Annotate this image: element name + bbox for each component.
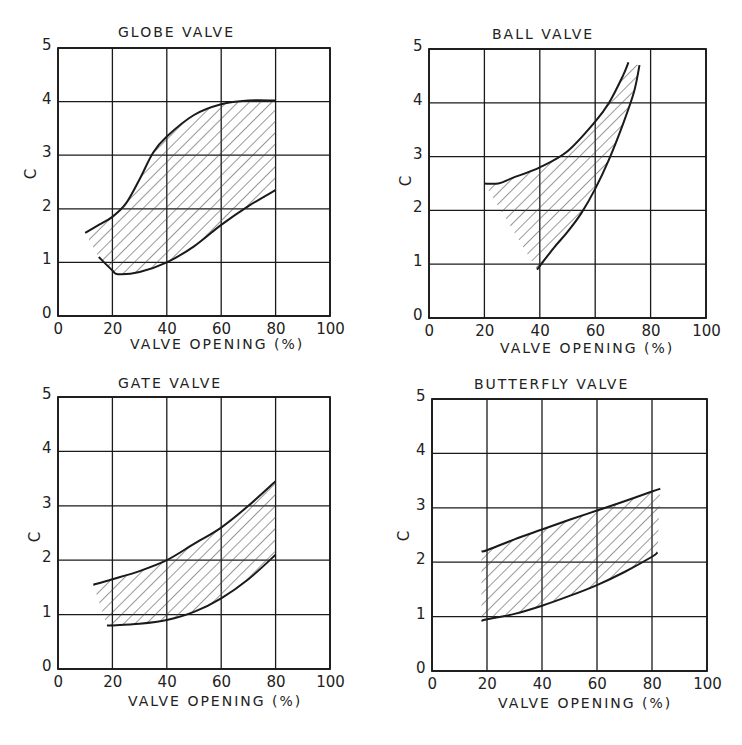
y-tick-label: 4: [416, 441, 426, 459]
x-tick-label: 80: [643, 675, 662, 693]
x-tick-label: 60: [588, 675, 607, 693]
y-tick-label: 4: [42, 439, 52, 457]
x-tick-label: 20: [103, 673, 122, 691]
y-tick-label: 2: [416, 550, 426, 568]
x-tick-label: 0: [53, 320, 63, 338]
x-tick-label: 60: [212, 673, 231, 691]
x-tick-label: 100: [316, 320, 345, 338]
y-tick-label: 1: [42, 603, 52, 621]
x-tick-label: 20: [103, 320, 122, 338]
y-tick-label: 1: [42, 250, 52, 268]
y-tick-label: 4: [42, 90, 52, 108]
x-tick-label: 100: [693, 675, 722, 693]
x-tick-label: 80: [641, 322, 660, 340]
x-tick-label: 40: [533, 675, 552, 693]
y-tick-label: 0: [42, 304, 52, 322]
y-tick-label: 0: [413, 306, 423, 324]
y-tick-label: 5: [42, 36, 52, 54]
x-tick-label: 0: [427, 675, 437, 693]
x-tick-label: 20: [475, 322, 494, 340]
x-tick-label: 100: [316, 673, 345, 691]
x-tick-label: 80: [266, 320, 285, 338]
y-tick-label: 0: [416, 659, 426, 677]
x-tick-label: 60: [212, 320, 231, 338]
x-tick-label: 0: [53, 673, 63, 691]
butterfly-valve-plot: [0, 0, 742, 745]
y-tick-label: 1: [413, 252, 423, 270]
y-tick-label: 3: [42, 494, 52, 512]
x-tick-label: 80: [266, 673, 285, 691]
y-tick-label: 3: [413, 145, 423, 163]
x-tick-label: 40: [158, 673, 177, 691]
y-tick-label: 2: [42, 548, 52, 566]
y-tick-label: 5: [42, 385, 52, 403]
x-tick-label: 100: [692, 322, 721, 340]
y-tick-label: 3: [42, 143, 52, 161]
x-tick-label: 40: [158, 320, 177, 338]
x-tick-label: 60: [586, 322, 605, 340]
y-tick-label: 0: [42, 657, 52, 675]
y-tick-label: 5: [416, 387, 426, 405]
y-tick-label: 2: [413, 198, 423, 216]
y-tick-label: 5: [413, 37, 423, 55]
hatched-band: [482, 489, 661, 621]
x-tick-label: 20: [478, 675, 497, 693]
y-tick-label: 4: [413, 91, 423, 109]
y-tick-label: 2: [42, 197, 52, 215]
y-tick-label: 3: [416, 496, 426, 514]
x-tick-label: 0: [424, 322, 434, 340]
y-tick-label: 1: [416, 605, 426, 623]
x-tick-label: 40: [531, 322, 550, 340]
